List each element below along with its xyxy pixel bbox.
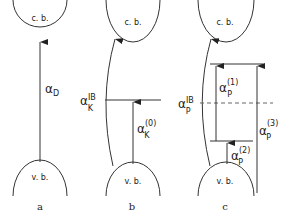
alpha-k0-label: α(0)K bbox=[137, 119, 156, 140]
alpha-k-ib-label: αIBK bbox=[80, 93, 96, 113]
indirect-transition-curve bbox=[106, 39, 115, 166]
panel-c: c. b. αIBP α(1)P α(2)P α(3)P v. b. c bbox=[178, 0, 278, 212]
conduction-band-label: c. b. bbox=[31, 14, 48, 23]
band-diagram: c. b. αD v. b. a c. b. αIBK α(0)K v. b. … bbox=[0, 0, 287, 222]
panel-b: c. b. αIBK α(0)K v. b. b bbox=[80, 0, 161, 212]
panel-a: c. b. αD v. b. a bbox=[13, 0, 67, 212]
valence-band-label: v. b. bbox=[32, 173, 49, 182]
panel-label-a: a bbox=[37, 201, 43, 212]
alpha-d-label: αD bbox=[45, 82, 59, 98]
panel-label-c: c bbox=[222, 201, 228, 212]
conduction-band-label: c. b. bbox=[124, 18, 141, 27]
alpha-p-ib-label: αIBP bbox=[178, 96, 194, 116]
valence-band-label: v. b. bbox=[125, 177, 142, 186]
conduction-band-label: c. b. bbox=[216, 18, 233, 27]
alpha-p3-label: α(3)P bbox=[259, 119, 278, 142]
panel-label-b: b bbox=[129, 201, 135, 212]
valence-band-label: v. b. bbox=[217, 177, 234, 186]
alpha-p2-label: α(2)P bbox=[231, 146, 250, 167]
alpha-p1-label: α(1)P bbox=[219, 78, 238, 99]
